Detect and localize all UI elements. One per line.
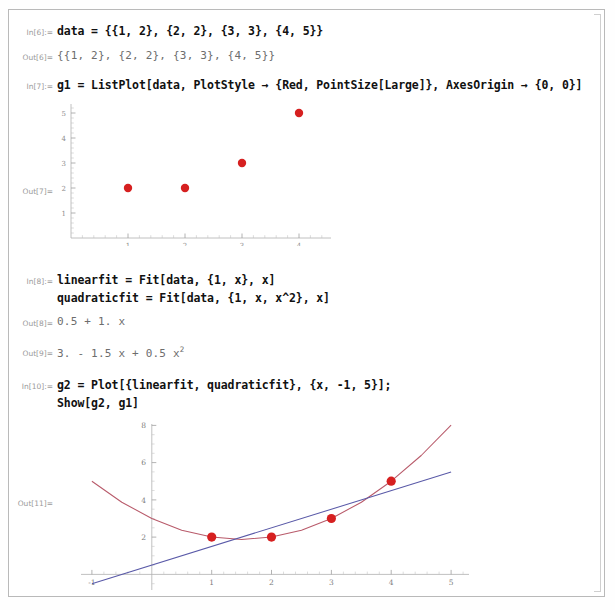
x-ticks-2: -1 1 2 3 4 5 (88, 570, 453, 587)
listplot-svg: 1 2 3 4 5 (49, 98, 339, 246)
svg-text:4: 4 (297, 242, 302, 246)
show-graphic-g2-g1[interactable]: 2 4 6 8 (77, 414, 477, 596)
x-ticks: 1 2 3 4 (126, 234, 302, 247)
svg-text:8: 8 (141, 421, 146, 430)
listplot-graphic-g1[interactable]: 1 2 3 4 5 (49, 98, 339, 246)
data-points (124, 109, 303, 192)
output-code-8: 0.5 + 1. x (57, 315, 125, 328)
linear-fit-line (92, 472, 451, 584)
in-label-8: In[8]:= (13, 277, 53, 286)
svg-text:2: 2 (62, 185, 66, 193)
svg-text:4: 4 (389, 578, 394, 587)
input-code-8-line1[interactable]: linearfit = Fit[data, {1, x}, x] (57, 273, 275, 287)
x-minor-ticks-2 (104, 572, 463, 575)
svg-text:2: 2 (269, 578, 274, 587)
out-label-9: Out[9]= (13, 349, 53, 358)
input-code-10-line2[interactable]: Show[g2, g1] (57, 396, 139, 410)
svg-text:6: 6 (141, 458, 146, 467)
in-label-6: In[6]:= (13, 28, 53, 37)
input-code-7[interactable]: g1 = ListPlot[data, PlotStyle → {Red, Po… (57, 78, 582, 92)
input-code-8-line2[interactable]: quadraticfit = Fit[data, {1, x, x^2}, x] (57, 291, 330, 305)
show-svg: 2 4 6 8 (77, 414, 477, 596)
in-label-7: In[7]:= (13, 82, 53, 91)
input-code-10-line1[interactable]: g2 = Plot[{linearfit, quadraticfit}, {x,… (57, 378, 391, 392)
svg-text:4: 4 (62, 135, 67, 143)
notebook-cell-bracket[interactable] (594, 14, 601, 592)
quadratic-fit-curve (92, 425, 451, 539)
out-label-6: Out[6]= (13, 53, 53, 62)
input-code-6[interactable]: data = {{1, 2}, {2, 2}, {3, 3}, {4, 5}} (57, 24, 323, 38)
output-code-6: {{1, 2}, {2, 2}, {3, 3}, {4, 5}} (57, 49, 275, 62)
svg-text:3: 3 (62, 160, 66, 168)
y-ticks: 1 2 3 4 5 (62, 110, 76, 218)
in-label-10: In[10]:= (11, 382, 53, 391)
y-minor-ticks-2 (152, 435, 155, 584)
output-code-9-base: 3. - 1.5 x + 0.5 x (57, 347, 180, 360)
x-minor-ticks (82, 235, 321, 238)
out-label-8: Out[8]= (13, 319, 53, 328)
svg-text:5: 5 (62, 110, 66, 118)
svg-text:2: 2 (183, 242, 187, 246)
svg-text:1: 1 (62, 210, 66, 218)
svg-text:1: 1 (126, 242, 130, 246)
out-label-7: Out[7]= (13, 187, 53, 196)
y-minor-ticks (71, 108, 74, 233)
svg-text:3: 3 (329, 578, 334, 587)
svg-text:2: 2 (141, 533, 146, 542)
notebook-window: In[6]:= data = {{1, 2}, {2, 2}, {3, 3}, … (8, 9, 605, 597)
svg-text:1: 1 (209, 578, 214, 587)
svg-text:5: 5 (449, 578, 454, 587)
output-code-9: 3. - 1.5 x + 0.5 x2 (57, 345, 185, 360)
svg-text:4: 4 (141, 496, 146, 505)
out-label-11: Out[11]= (11, 499, 53, 508)
data-points-2 (207, 477, 396, 542)
screenshot-root: In[6]:= data = {{1, 2}, {2, 2}, {3, 3}, … (0, 0, 615, 610)
svg-text:3: 3 (240, 242, 244, 246)
output-code-9-exponent: 2 (180, 345, 185, 354)
